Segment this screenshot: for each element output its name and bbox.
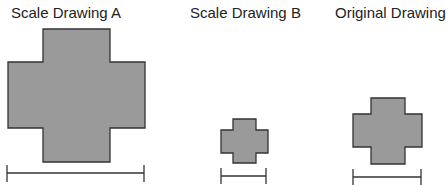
scale-bar-original: [353, 169, 421, 185]
scale-bar-b: [221, 168, 266, 184]
cross-shape-b: [221, 119, 268, 163]
scale-bar-a: [7, 165, 144, 182]
cross-shape-a: [8, 29, 145, 162]
cross-shape-original: [353, 98, 422, 164]
